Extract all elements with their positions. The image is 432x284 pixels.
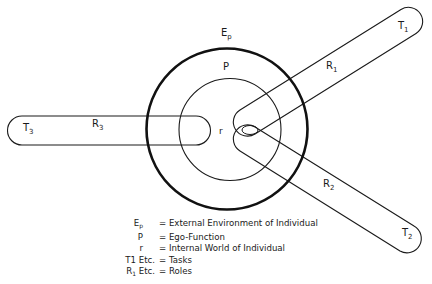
label-t3: T3 — [22, 122, 34, 136]
legend-text: = External Environment of Individual — [159, 218, 318, 232]
core-overlap-ellipse — [242, 126, 258, 135]
label-ep: Ep — [221, 27, 232, 41]
legend: Ep = External Environment of Individual … — [112, 218, 318, 280]
label-p: P — [223, 61, 229, 72]
legend-row-r: r = Internal World of Individual — [112, 243, 318, 255]
legend-text: = Tasks — [159, 255, 192, 267]
label-r2: R2 — [323, 178, 334, 192]
legend-key: R1 Etc. — [112, 266, 159, 280]
label-t1: T1 — [397, 20, 409, 34]
legend-row-p: P = Ego-Function — [112, 232, 318, 244]
label-t2: T2 — [401, 227, 413, 241]
label-r3: R3 — [92, 118, 103, 132]
label-r1: R1 — [326, 60, 337, 74]
legend-text: = Roles — [159, 266, 192, 280]
legend-row-roles: R1 Etc. = Roles — [112, 266, 318, 280]
legend-text: = Ego-Function — [159, 232, 225, 244]
legend-key: r — [112, 243, 159, 255]
legend-key: P — [112, 232, 159, 244]
band-r1-t1 — [233, 7, 422, 136]
legend-key: T1 Etc. — [112, 255, 159, 267]
legend-text: = Internal World of Individual — [159, 243, 285, 255]
label-r: r — [219, 126, 223, 136]
legend-key: Ep — [112, 218, 159, 232]
ego-function-circle — [179, 79, 281, 181]
external-environment-circle — [147, 49, 308, 210]
legend-row-ep: Ep = External Environment of Individual — [112, 218, 318, 232]
legend-row-tasks: T1 Etc. = Tasks — [112, 255, 318, 267]
